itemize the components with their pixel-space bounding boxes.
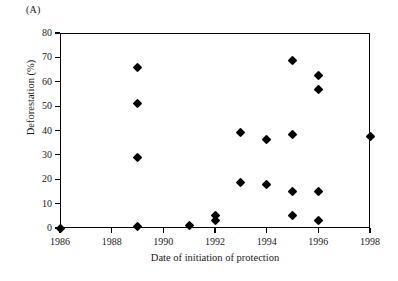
y-tick-mark (55, 203, 60, 204)
x-tick-mark (163, 228, 164, 233)
x-tick-label: 1988 (92, 235, 132, 248)
y-tick-label: 70 (42, 50, 52, 63)
y-tick-mark (55, 130, 60, 131)
y-axis-title: Deforestation (%) (25, 8, 36, 188)
y-tick-mark (55, 32, 60, 33)
y-tick-mark (55, 154, 60, 155)
y-tick-label: 30 (42, 148, 52, 161)
x-tick-label: 1992 (195, 235, 235, 248)
x-tick-label: 1998 (350, 235, 390, 248)
x-tick-label: 1996 (298, 235, 338, 248)
y-tick-mark (55, 179, 60, 180)
y-tick-mark (55, 81, 60, 82)
y-tick-label: 40 (42, 124, 52, 137)
y-tick-label: 80 (42, 26, 52, 39)
y-tick-label: 10 (42, 197, 52, 210)
x-tick-mark (111, 228, 112, 233)
x-tick-label: 1990 (143, 235, 183, 248)
x-tick-mark (214, 228, 215, 233)
scatter-chart: (A) 01020304050607080 198619881990199219… (0, 0, 398, 281)
x-tick-mark (266, 228, 267, 233)
x-tick-label: 1986 (40, 235, 80, 248)
y-tick-label: 20 (42, 172, 52, 185)
x-tick-mark (369, 228, 370, 233)
x-tick-mark (318, 228, 319, 233)
y-tick-mark (55, 57, 60, 58)
y-tick-label: 50 (42, 99, 52, 112)
y-tick-mark (55, 106, 60, 107)
plot-area (60, 33, 370, 228)
y-tick-label: 60 (42, 75, 52, 88)
x-tick-label: 1994 (247, 235, 287, 248)
y-tick-label: 0 (47, 221, 52, 234)
x-axis-title: Date of initiation of protection (60, 252, 370, 263)
